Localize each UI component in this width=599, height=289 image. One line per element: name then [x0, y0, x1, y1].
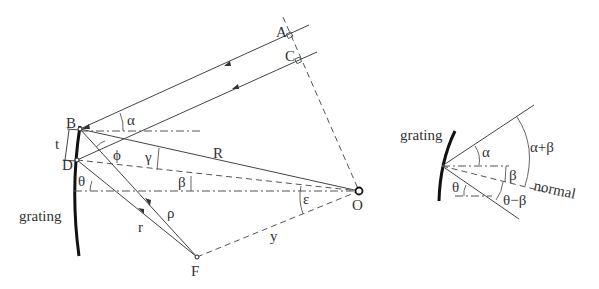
left-panel: A C B D F O t α ϕ γ R β θ ε ρ r y gratin…: [19, 17, 363, 279]
label-F: F: [191, 263, 199, 279]
label-theta-right: θ: [452, 179, 459, 195]
label-grating-left: grating: [19, 208, 62, 224]
line-DO: [77, 160, 359, 191]
arc-theta-right: [464, 185, 466, 196]
label-alpha: α: [127, 112, 135, 128]
point-F: [195, 255, 199, 259]
label-O: O: [352, 197, 363, 213]
label-beta: β: [178, 174, 186, 190]
point-O: [356, 188, 363, 195]
label-C: C: [285, 48, 295, 64]
label-alpha-plus-beta: α+β: [530, 139, 554, 155]
right-panel: grating α α+β β normal θ θ−β: [400, 105, 577, 219]
label-beta-right: β: [509, 167, 517, 183]
arc-beta-right: [505, 166, 506, 182]
label-B: B: [66, 115, 76, 131]
label-theta: θ: [78, 173, 85, 189]
label-epsilon: ε: [303, 191, 309, 207]
label-A: A: [276, 24, 287, 40]
arrow-CD: [232, 84, 239, 89]
label-grating-right: grating: [400, 127, 443, 143]
label-r: r: [138, 219, 143, 235]
arc-gamma: [157, 148, 159, 170]
ray-A-to-B: [80, 25, 309, 129]
arc-alpha-right: [475, 146, 480, 165]
point-B: [78, 127, 82, 131]
arc-alpha: [120, 113, 123, 131]
arc-phi: [96, 141, 105, 147]
label-y: y: [270, 228, 278, 244]
arc-theta: [90, 181, 92, 191]
grating-geometry-diagram: A C B D F O t α ϕ γ R β θ ε ρ r y gratin…: [0, 0, 599, 289]
label-D: D: [62, 157, 73, 173]
label-R: R: [213, 145, 223, 161]
label-normal: normal: [532, 177, 577, 201]
arrow-r: [138, 208, 144, 214]
arc-theta-minus-beta: [496, 182, 503, 200]
arrow-rho: [145, 198, 151, 206]
line-y-FO: [197, 191, 359, 257]
t-dimension: [65, 130, 69, 160]
ray-B-to-F-rho: [80, 129, 197, 257]
arc-alpha-plus-beta: [517, 117, 530, 186]
label-gamma: γ: [144, 149, 152, 165]
label-theta-minus-beta: θ−β: [503, 192, 526, 208]
label-alpha-right: α: [482, 144, 490, 160]
label-phi: ϕ: [113, 147, 121, 163]
point-D: [75, 158, 79, 162]
arrow-at-B: [82, 124, 90, 129]
label-t: t: [55, 136, 60, 152]
wavefront-line: [283, 17, 359, 191]
ray-C-to-D: [77, 52, 317, 160]
label-rho: ρ: [167, 205, 175, 221]
